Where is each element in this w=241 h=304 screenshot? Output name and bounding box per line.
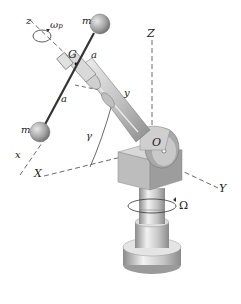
label-a-top: a — [91, 50, 97, 60]
label-G: G — [68, 49, 77, 60]
omega-subscript: p — [58, 22, 62, 30]
label-x: x — [15, 150, 21, 160]
label-gamma: γ — [86, 131, 92, 141]
mass-top — [90, 14, 110, 34]
label-m-top: m — [82, 16, 91, 26]
gamma-arc — [90, 104, 112, 167]
omega-symbol: ω — [50, 19, 58, 30]
label-z: z — [26, 16, 31, 26]
label-Omega: Ω — [179, 200, 188, 211]
label-a-bottom: a — [61, 94, 67, 104]
label-Y: Y — [219, 183, 226, 194]
label-Z: Z — [147, 28, 155, 39]
label-y: y — [124, 88, 130, 98]
label-X: X — [34, 168, 42, 179]
label-O: O — [152, 137, 161, 148]
mass-bottom — [30, 122, 50, 142]
label-omega-p: ωp — [50, 20, 63, 30]
robot-arm-diagram: z ωp m a G y Z a m x γ O X Y Ω — [0, 0, 241, 304]
diagram-drawing — [0, 0, 241, 304]
label-m-bottom: m — [21, 125, 30, 135]
